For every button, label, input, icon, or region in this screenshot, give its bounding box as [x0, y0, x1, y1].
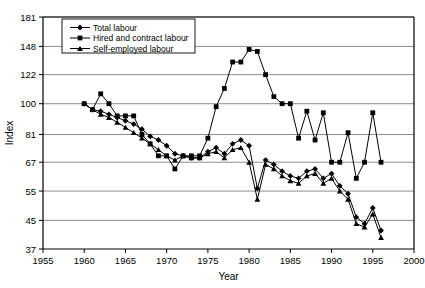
y-tick-label: 55 [25, 186, 36, 197]
legend-label: Total labour [93, 23, 137, 33]
data-point [346, 130, 351, 135]
data-point [337, 160, 342, 165]
data-point [362, 160, 367, 165]
data-point [329, 160, 334, 165]
data-point [173, 167, 178, 172]
legend-label: Self-employed labour [93, 44, 173, 54]
data-point [156, 153, 161, 158]
x-axis-title: Year [218, 271, 239, 282]
y-tick-label: 122 [20, 69, 36, 80]
data-point [222, 86, 227, 91]
x-tick-label: 1970 [156, 255, 177, 266]
legend-marker-square [78, 36, 83, 41]
chart-legend: Total labourHired and contract labourSel… [62, 19, 195, 54]
y-axis-title: Index [4, 121, 15, 145]
line-chart: 3745556781100122148181195519601965197019… [0, 0, 425, 288]
x-tick-label: 1985 [280, 255, 301, 266]
chart-container: 3745556781100122148181195519601965197019… [0, 0, 425, 288]
data-point [271, 94, 276, 99]
x-tick-label: 1975 [197, 255, 218, 266]
x-tick-label: 1980 [239, 255, 260, 266]
x-tick-label: 2000 [403, 255, 424, 266]
data-point [255, 49, 260, 54]
data-point [313, 138, 318, 143]
data-point [321, 110, 326, 115]
legend-label: Hired and contract labour [93, 33, 189, 43]
x-tick-label: 1965 [115, 255, 136, 266]
y-tick-label: 45 [25, 215, 36, 226]
data-point [214, 104, 219, 109]
x-tick-label: 1955 [32, 255, 53, 266]
y-tick-label: 81 [25, 129, 36, 140]
data-point [379, 160, 384, 165]
data-point [107, 101, 112, 106]
x-tick-label: 1960 [74, 255, 95, 266]
data-point [288, 101, 293, 106]
data-point [238, 60, 243, 65]
data-point [304, 109, 309, 114]
data-point [280, 101, 285, 106]
data-point [370, 110, 375, 115]
data-point [123, 113, 128, 118]
y-tick-label: 67 [25, 157, 36, 168]
y-tick-label: 181 [20, 12, 36, 23]
data-point [263, 72, 268, 77]
y-tick-label: 100 [20, 98, 36, 109]
data-point [115, 113, 120, 118]
data-point [98, 91, 103, 96]
y-tick-label: 148 [20, 41, 36, 52]
y-tick-label: 37 [25, 244, 36, 255]
data-point [205, 136, 210, 141]
data-point [354, 176, 359, 181]
data-point [247, 47, 252, 52]
data-point [230, 60, 235, 65]
x-tick-label: 1990 [321, 255, 342, 266]
data-point [131, 113, 136, 118]
data-point [296, 136, 301, 141]
x-tick-label: 1995 [362, 255, 383, 266]
